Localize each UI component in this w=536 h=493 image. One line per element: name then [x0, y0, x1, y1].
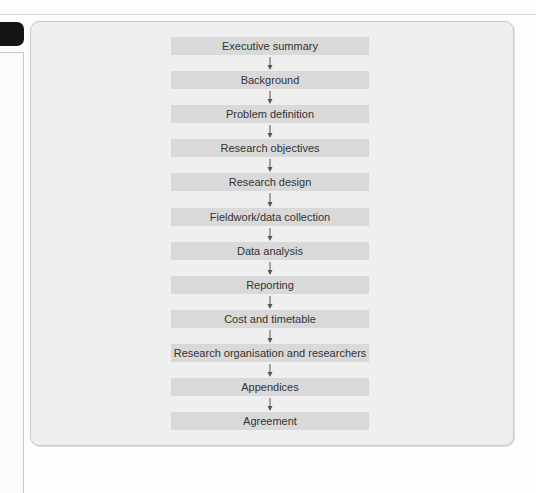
- down-arrow-icon: [265, 55, 275, 71]
- flow-step: Research design: [171, 173, 369, 191]
- down-arrow-icon: [265, 328, 275, 344]
- side-tab: [0, 22, 24, 46]
- flow-step: Problem definition: [171, 105, 369, 123]
- flow-step: Fieldwork/data collection: [171, 208, 369, 226]
- flow-step: Executive summary: [171, 37, 369, 55]
- flow-step: Cost and timetable: [171, 310, 369, 328]
- down-arrow-icon: [265, 123, 275, 139]
- flow-step: Agreement: [171, 412, 369, 430]
- down-arrow-icon: [265, 260, 275, 276]
- flow-step: Background: [171, 71, 369, 89]
- flow-step: Reporting: [171, 276, 369, 294]
- down-arrow-icon: [265, 191, 275, 207]
- flow-step: Research organisation and researchers: [171, 344, 369, 362]
- down-arrow-icon: [265, 294, 275, 310]
- down-arrow-icon: [265, 396, 275, 412]
- down-arrow-icon: [265, 362, 275, 378]
- flow-step: Appendices: [171, 378, 369, 396]
- down-arrow-icon: [265, 89, 275, 105]
- down-arrow-icon: [265, 226, 275, 242]
- top-divider: [0, 14, 536, 15]
- flow-step: Research objectives: [171, 139, 369, 157]
- flow-step: Data analysis: [171, 242, 369, 260]
- down-arrow-icon: [265, 157, 275, 173]
- side-panel: [0, 52, 24, 493]
